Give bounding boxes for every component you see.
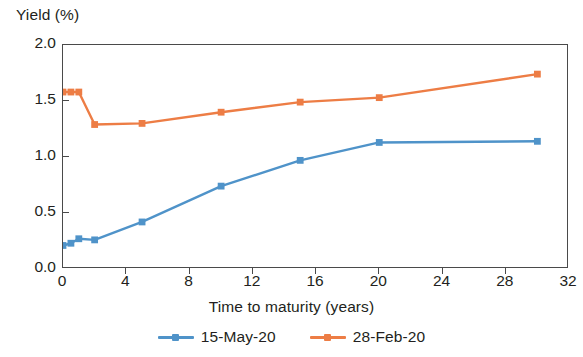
legend-swatch-icon xyxy=(158,331,194,343)
legend-item[interactable]: 15-May-20 xyxy=(158,328,276,346)
data-point-marker xyxy=(376,139,383,146)
plot-area xyxy=(62,44,568,268)
y-tick-mark xyxy=(62,212,69,213)
data-point-marker xyxy=(376,94,383,101)
x-tick-label: 32 xyxy=(548,272,583,290)
data-point-marker xyxy=(75,235,82,242)
y-tick-mark xyxy=(62,156,69,157)
data-point-marker xyxy=(91,236,98,243)
data-point-marker xyxy=(75,89,82,96)
data-point-marker xyxy=(534,71,541,78)
x-tick-mark xyxy=(315,268,316,274)
legend-label: 15-May-20 xyxy=(201,328,276,346)
y-tick-mark xyxy=(62,100,69,101)
data-point-marker xyxy=(297,99,304,106)
data-point-marker xyxy=(218,183,225,190)
y-tick-label: 2.0 xyxy=(0,34,56,52)
data-point-marker xyxy=(534,138,541,145)
data-point-marker xyxy=(139,120,146,127)
x-axis-title: Time to maturity (years) xyxy=(0,298,583,316)
x-tick-label: 0 xyxy=(42,272,82,290)
x-tick-mark xyxy=(442,268,443,274)
y-axis-title: Yield (%) xyxy=(16,6,79,24)
data-point-marker xyxy=(139,219,146,226)
x-tick-mark xyxy=(189,268,190,274)
data-point-marker xyxy=(297,157,304,164)
legend-marker xyxy=(324,334,331,341)
data-point-marker xyxy=(63,242,66,249)
legend-item[interactable]: 28-Feb-20 xyxy=(310,328,425,346)
data-point-marker xyxy=(68,89,75,96)
chart-legend: 15-May-2028-Feb-20 xyxy=(0,328,583,346)
data-point-marker xyxy=(63,89,66,96)
x-tick-label: 12 xyxy=(232,272,272,290)
x-tick-label: 4 xyxy=(105,272,145,290)
x-tick-label: 16 xyxy=(295,272,335,290)
series-canvas xyxy=(63,45,569,269)
y-tick-label: 1.0 xyxy=(0,146,56,164)
x-tick-mark xyxy=(125,268,126,274)
x-tick-label: 24 xyxy=(422,272,462,290)
y-tick-label: 1.5 xyxy=(0,90,56,108)
x-tick-mark xyxy=(378,268,379,274)
data-point-marker xyxy=(68,240,75,247)
x-tick-label: 8 xyxy=(169,272,209,290)
yield-curve-chart: Yield (%) 0.00.51.01.52.0 04812162024283… xyxy=(0,0,583,357)
data-point-marker xyxy=(218,109,225,116)
series-line xyxy=(63,141,537,245)
x-tick-mark xyxy=(505,268,506,274)
legend-label: 28-Feb-20 xyxy=(353,328,425,346)
legend-marker xyxy=(172,334,179,341)
data-point-marker xyxy=(91,121,98,128)
x-tick-label: 20 xyxy=(358,272,398,290)
y-tick-label: 0.5 xyxy=(0,202,56,220)
x-tick-label: 28 xyxy=(485,272,525,290)
x-tick-mark xyxy=(252,268,253,274)
legend-swatch-icon xyxy=(310,331,346,343)
